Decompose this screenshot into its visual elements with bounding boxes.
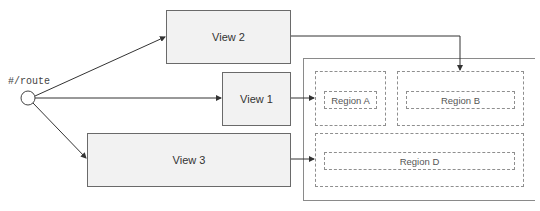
arrow-view2-to-region-b <box>291 36 460 70</box>
arrow-route-to-view2 <box>35 37 165 96</box>
connectors <box>0 0 540 211</box>
route-node <box>21 91 35 105</box>
arrow-route-to-view3 <box>33 103 86 158</box>
